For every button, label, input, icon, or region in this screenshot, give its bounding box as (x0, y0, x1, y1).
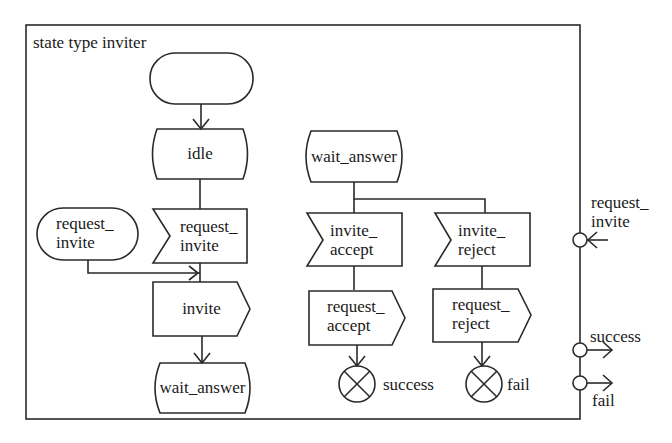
port-success-icon[interactable] (573, 343, 587, 357)
port-fail-label: fail (592, 391, 615, 410)
wait-answer-right-label: wait_answer (301, 147, 407, 166)
port-success-label: success (590, 327, 641, 346)
output-request-reject-label: request_ reject (452, 295, 510, 333)
exit-fail-label: fail (507, 375, 530, 394)
exit-fail-icon[interactable] (466, 366, 502, 402)
external-request-invite-label: request_ invite (56, 214, 114, 252)
port-fail-icon[interactable] (573, 376, 587, 390)
diagram-title: state type inviter (33, 33, 146, 52)
input-invite-reject-label: invite_ reject (458, 221, 505, 259)
output-invite-label: invite (153, 299, 250, 318)
port-request-invite-icon[interactable] (573, 233, 587, 247)
start-terminator[interactable] (150, 53, 253, 104)
exit-success-icon[interactable] (339, 366, 375, 402)
idle-state-label: idle (150, 144, 250, 163)
port-request-invite-label: request_ invite (591, 193, 649, 231)
input-invite-accept-label: invite_ accept (330, 221, 377, 259)
output-request-accept-label: request_ accept (327, 297, 385, 335)
input-request-invite-label: request_ invite (180, 217, 238, 255)
wait-answer-left-label: wait_answer (150, 378, 255, 397)
exit-success-label: success (383, 375, 434, 394)
